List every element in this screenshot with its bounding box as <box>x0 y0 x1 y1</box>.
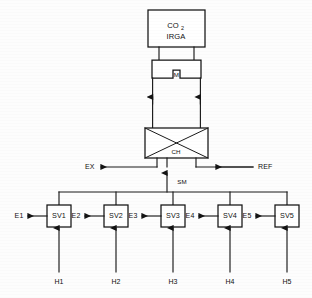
measurement-chamber: M <box>152 60 201 78</box>
reference-port-label: REF <box>258 163 272 170</box>
valve-outlet-label: E5 <box>243 212 252 219</box>
schematic-canvas: CO 2 IRGA M CH <box>0 0 312 298</box>
valve-inlet-label: H4 <box>225 278 234 285</box>
valve-column: SV4E4H4 <box>186 192 242 285</box>
irga-analyzer: CO 2 IRGA <box>148 10 205 47</box>
valve-array: SV1E1H1SV2E2H2SV3E3H3SV4E4H4SV5E5H5 <box>15 192 299 285</box>
valve-column: SV3E3H3 <box>129 192 185 285</box>
crossover-to-chamber-risers <box>153 97 201 128</box>
reference-branch: REF <box>196 158 272 170</box>
valve-inlet-label: H3 <box>168 278 177 285</box>
chamber-label: M <box>174 71 179 78</box>
valve-name-label: SV5 <box>280 211 294 220</box>
valve-column: SV2E2H2 <box>72 192 128 285</box>
irga-co2-label: CO <box>167 21 179 30</box>
crossover-valve: CH <box>145 128 208 158</box>
valve-outlet-label: E3 <box>129 212 138 219</box>
irga-co2-subscript: 2 <box>181 25 184 31</box>
exhaust-port-label: EX <box>85 163 95 170</box>
valve-inlet-label: H1 <box>54 278 63 285</box>
sample-port-label: SM <box>177 178 187 185</box>
sample-riser: SM <box>167 158 187 192</box>
valve-name-label: SV4 <box>223 211 237 220</box>
flow-diagram: CO 2 IRGA M CH <box>0 0 312 298</box>
valve-column: SV1E1H1 <box>15 192 71 285</box>
analyzer-chamber-stubs <box>159 47 194 60</box>
valve-inlet-label: H5 <box>282 278 291 285</box>
irga-type-label: IRGA <box>166 32 186 41</box>
valve-outlet-label: E1 <box>15 212 24 219</box>
valve-inlet-label: H2 <box>111 278 120 285</box>
valve-name-label: SV1 <box>52 211 66 220</box>
valve-outlet-label: E2 <box>72 212 81 219</box>
valve-name-label: SV2 <box>109 211 123 220</box>
valve-outlet-label: E4 <box>186 212 195 219</box>
valve-column: SV5E5H5 <box>243 192 299 285</box>
valve-name-label: SV3 <box>166 211 180 220</box>
crossover-label: CH <box>171 148 180 155</box>
chamber-side-legs <box>153 78 201 104</box>
exhaust-branch: EX <box>85 158 157 170</box>
